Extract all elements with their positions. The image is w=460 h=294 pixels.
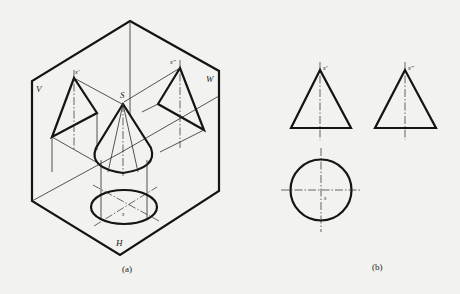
top-apex-label: s xyxy=(324,195,327,201)
apex-label-w: s'' xyxy=(170,58,176,66)
caption-a: (a) xyxy=(122,264,132,274)
plane-label-h: H xyxy=(115,238,123,248)
v-projector-3 xyxy=(74,78,122,104)
w-projector-1 xyxy=(124,68,180,102)
w-projector-2 xyxy=(160,130,204,152)
side-view-triangle xyxy=(375,70,436,128)
drawing-canvas: V W H S s' s'' s (a) s' s'' s (b) xyxy=(0,0,460,294)
apex-label-s: S xyxy=(120,90,125,100)
panel-a: V W H S s' s'' s (a) xyxy=(32,21,219,274)
w-projector-3 xyxy=(142,104,158,112)
panel-b: s' s'' s (b) xyxy=(281,62,436,272)
plane-label-w: W xyxy=(206,74,215,84)
caption-b: (b) xyxy=(372,262,383,272)
plane-label-v: V xyxy=(36,84,43,94)
apex-label-v: s' xyxy=(75,68,80,76)
apex-label-h: s xyxy=(122,211,125,217)
front-apex-label: s' xyxy=(323,64,328,72)
front-view-triangle xyxy=(291,70,351,128)
plane-box-outline xyxy=(32,21,219,255)
side-apex-label: s'' xyxy=(408,64,414,72)
vh-axis-line xyxy=(32,153,120,201)
